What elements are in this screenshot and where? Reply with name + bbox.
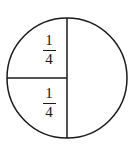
fraction-label-upper-left: 1 4 bbox=[36, 33, 62, 68]
fraction-circle-graphic bbox=[0, 0, 133, 145]
fraction-circle-figure: 1 4 1 4 bbox=[0, 0, 133, 145]
fraction-denominator-lower-left: 4 bbox=[36, 105, 62, 121]
fraction-numerator-upper-left: 1 bbox=[36, 33, 62, 49]
fraction-numerator-lower-left: 1 bbox=[36, 86, 62, 102]
fraction-denominator-upper-left: 4 bbox=[36, 52, 62, 68]
fraction-label-lower-left: 1 4 bbox=[36, 86, 62, 121]
